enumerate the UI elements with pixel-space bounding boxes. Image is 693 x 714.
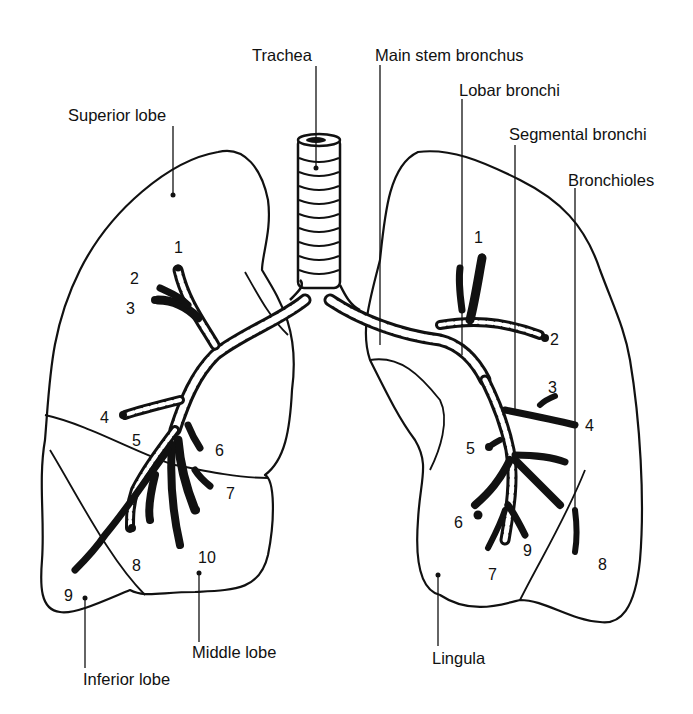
left-segment-6: 6 xyxy=(454,515,463,531)
right-segment-1: 1 xyxy=(174,240,183,256)
lung-diagram: Trachea Main stem bronchus Lobar bronchi… xyxy=(0,0,693,714)
trachea xyxy=(290,134,360,310)
right-lung-outline xyxy=(41,151,294,613)
left-bronchial-tree xyxy=(330,254,577,553)
left-segment-1: 1 xyxy=(474,230,483,246)
label-superior-lobe: Superior lobe xyxy=(68,107,166,124)
left-segment-5: 5 xyxy=(466,441,475,457)
right-segment-2: 2 xyxy=(130,271,139,287)
right-segment-9: 9 xyxy=(64,588,73,604)
right-segment-10: 10 xyxy=(198,550,216,566)
label-middle-lobe: Middle lobe xyxy=(192,644,276,661)
left-lingula-boundary xyxy=(370,359,444,470)
label-inferior-lobe: Inferior lobe xyxy=(83,671,170,688)
right-segment-8: 8 xyxy=(132,558,141,574)
left-segment-8: 8 xyxy=(598,557,607,573)
label-bronchioles: Bronchioles xyxy=(568,172,654,189)
label-lobar-bronchi: Lobar bronchi xyxy=(459,82,560,99)
right-segment-5: 5 xyxy=(132,433,141,449)
label-lingula: Lingula xyxy=(432,650,485,667)
left-segment-2: 2 xyxy=(550,332,559,348)
label-trachea: Trachea xyxy=(252,47,312,64)
left-segment-9: 9 xyxy=(523,543,532,559)
label-main-stem-bronchus: Main stem bronchus xyxy=(375,47,524,64)
left-segment-3: 3 xyxy=(548,380,557,396)
right-bronchial-tree xyxy=(75,265,305,571)
right-segment-6: 6 xyxy=(215,443,224,459)
left-segment-4: 4 xyxy=(585,418,594,434)
left-lung-outline xyxy=(366,151,642,622)
right-segment-3: 3 xyxy=(126,301,135,317)
right-segment-4: 4 xyxy=(100,410,109,426)
right-segment-7: 7 xyxy=(226,486,235,502)
left-segment-7: 7 xyxy=(488,567,497,583)
label-segmental-bronchi: Segmental bronchi xyxy=(509,126,647,143)
